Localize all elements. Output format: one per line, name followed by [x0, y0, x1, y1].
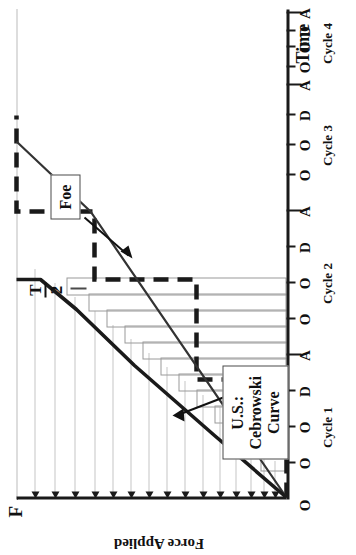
y-axis-label: Force Applied	[79, 535, 239, 552]
tick-label-c4-d: D	[296, 26, 313, 37]
rotated-figure: F Force Applied Time T 2 O O O D A Cycle…	[0, 0, 356, 555]
half-period-tick	[70, 287, 86, 289]
tick-label-c3-a: A	[296, 80, 313, 91]
tick-label-c4-o2: O	[296, 41, 313, 53]
cycle-label-4: Cycle 4	[319, 23, 335, 64]
us-callout-arrowhead	[172, 408, 184, 421]
tick-label-c1-o2: O	[296, 421, 313, 433]
tick-label-c3-d: D	[296, 110, 313, 121]
foe-callout-leader	[84, 217, 128, 255]
us-callout-leader	[176, 395, 228, 415]
origin-tick-label: O	[296, 499, 313, 511]
tick-label-c1-o1: O	[296, 457, 313, 469]
tick-label-c4-a: A	[296, 8, 313, 19]
tick-label-c2-d: D	[296, 242, 313, 253]
cycle-label-2: Cycle 2	[319, 263, 335, 304]
cycle-label-3: Cycle 3	[319, 125, 335, 166]
half-period-label: T 2	[26, 282, 64, 297]
y-axis-symbol: F	[4, 505, 26, 517]
figure-canvas: F Force Applied Time T 2 O O O D A Cycle…	[0, 0, 356, 555]
tick-label-c3-o1: O	[296, 169, 313, 181]
tick-label-c4-o1: O	[296, 61, 313, 73]
callout-foe: Foe	[50, 174, 80, 219]
cycle-label-1: Cycle 1	[319, 407, 335, 448]
tick-label-c1-a: A	[296, 350, 313, 361]
tick-label-c2-a: A	[296, 206, 313, 217]
tick-label-c2-o1: O	[296, 313, 313, 325]
half-period-denominator: 2	[47, 282, 64, 297]
tick-label-c1-d: D	[296, 386, 313, 397]
half-period-numerator: T	[26, 282, 43, 297]
tick-label-c2-o2: O	[296, 277, 313, 289]
callout-us-cebrowski: U.S.: Cebrowski Curve	[222, 366, 288, 460]
tick-label-c3-o2: O	[296, 139, 313, 151]
